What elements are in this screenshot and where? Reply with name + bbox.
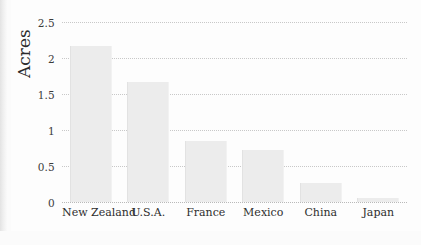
x-axis-tick-label: Mexico — [235, 206, 293, 219]
bar-slot — [120, 22, 178, 202]
bar-slot — [292, 22, 350, 202]
bar-slot — [177, 22, 235, 202]
y-axis-tick-label: 0 — [48, 197, 55, 209]
bar-slot — [62, 22, 120, 202]
chart-figure: Acres 00.511.522.5 New ZealandU.S.A.Fran… — [0, 0, 421, 245]
bar-new-zealand — [70, 46, 112, 202]
x-axis-tick-label: U.S.A. — [120, 206, 178, 219]
bar-slot — [350, 22, 408, 202]
gridline: 0 — [62, 202, 407, 204]
page-edge-artifact — [0, 0, 7, 245]
x-axis-tick-labels: New ZealandU.S.A.FranceMexicoChinaJapan — [62, 206, 407, 219]
x-axis-tick-label: France — [177, 206, 235, 219]
bar-china — [300, 183, 342, 202]
bar-japan — [357, 198, 399, 202]
plot-area: 00.511.522.5 — [62, 22, 407, 202]
bar-mexico — [242, 150, 284, 202]
y-axis-tick-label: 2.5 — [38, 17, 55, 29]
y-axis-tick-label: 1.5 — [38, 89, 55, 101]
bar-slot — [235, 22, 293, 202]
x-axis-tick-label: China — [292, 206, 350, 219]
y-axis-tick-label: 0.5 — [38, 161, 55, 173]
bar-series — [62, 22, 407, 202]
bar-u-s-a — [127, 82, 169, 202]
page-edge-artifact-inner — [7, 0, 11, 245]
page-bottom-band — [0, 231, 421, 245]
x-axis-tick-label: Japan — [350, 206, 408, 219]
x-axis-tick-label: New Zealand — [62, 206, 120, 219]
y-axis-title: Acres — [14, 29, 34, 78]
bar-france — [185, 141, 227, 202]
y-axis-tick-label: 2 — [48, 53, 55, 65]
y-axis-tick-label: 1 — [48, 125, 55, 137]
